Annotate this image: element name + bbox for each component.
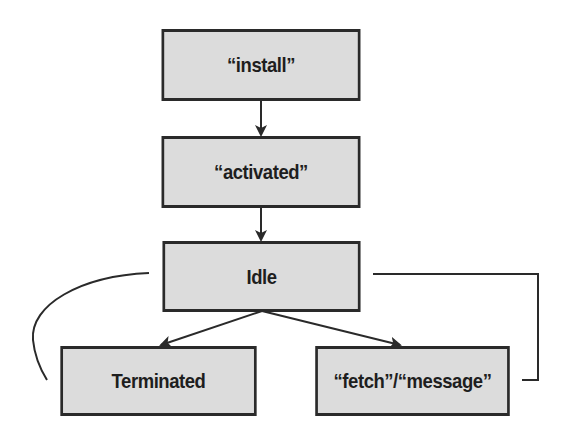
- state-idle: Idle: [163, 241, 361, 312]
- state-fetch-message: “fetch”/“message”: [315, 346, 509, 416]
- state-install-label: “install”: [227, 53, 295, 77]
- state-terminated: Terminated: [60, 346, 256, 416]
- edge-idle-to-terminated: [161, 311, 262, 345]
- state-activated-label: “activated”: [214, 160, 308, 184]
- state-install: “install”: [162, 29, 361, 101]
- service-worker-lifecycle-diagram: “install” “activated” Idle Terminated “f…: [0, 0, 571, 438]
- state-terminated-label: Terminated: [112, 369, 206, 393]
- state-fetch-message-label: “fetch”/“message”: [334, 369, 492, 393]
- state-idle-label: Idle: [246, 265, 276, 289]
- state-activated: “activated”: [162, 136, 361, 208]
- edge-idle-to-fetch-message: [262, 311, 400, 345]
